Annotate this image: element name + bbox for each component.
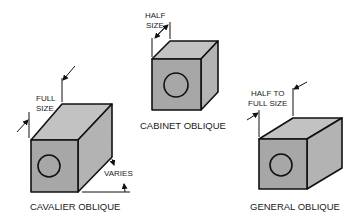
general-dim-label-2: FULL SIZE <box>248 99 287 108</box>
oblique-diagram: FULL SIZE VARIES CAVALIER OBLIQUE HALF S… <box>0 0 356 218</box>
general-hole-circle <box>270 154 292 176</box>
cavalier-hole-circle <box>38 155 60 177</box>
cavalier-caption: CAVALIER OBLIQUE <box>30 201 120 212</box>
cavalier-figure <box>31 104 112 192</box>
cavalier-dim-label-1: FULL <box>36 94 56 103</box>
cavalier-dim-label-2: SIZE <box>36 104 54 113</box>
cavalier-angle-label: VARIES <box>104 169 133 178</box>
cabinet-caption: CABINET OBLIQUE <box>140 120 226 131</box>
cabinet-figure <box>152 41 218 110</box>
cabinet-hole-circle <box>164 73 188 97</box>
general-figure <box>259 118 342 189</box>
general-caption: GENERAL OBLIQUE <box>250 201 340 212</box>
general-dim-label-1: HALF TO <box>251 89 285 98</box>
cabinet-dim-label-2: SIZE <box>146 21 164 30</box>
cabinet-dim-label-1: HALF <box>145 11 166 20</box>
